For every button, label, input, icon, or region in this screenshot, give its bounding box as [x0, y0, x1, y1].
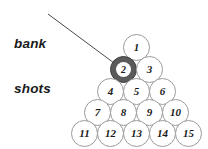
ball-2-number-disc: 2 [116, 62, 131, 77]
ball-8-number: 8 [121, 107, 127, 118]
ball-14: 14 [149, 120, 176, 147]
ball-13-number: 13 [131, 128, 142, 139]
ball-14-number: 14 [157, 128, 168, 139]
ball-12-number: 12 [105, 128, 116, 139]
ball-5-number: 5 [134, 86, 140, 97]
ball-3-number: 3 [147, 64, 153, 75]
ball-15-number: 15 [183, 128, 194, 139]
ball-11-number: 11 [79, 128, 89, 139]
diagram-canvas: bank shots 123456789101112131415 [0, 0, 208, 149]
ball-4-number: 4 [108, 86, 114, 97]
ball-10-number: 10 [170, 107, 181, 118]
ball-9-number: 9 [147, 107, 153, 118]
ball-1-number: 1 [134, 42, 140, 53]
ball-11: 11 [71, 120, 98, 147]
ball-15: 15 [175, 120, 202, 147]
ball-2-number: 2 [121, 64, 126, 74]
ball-12: 12 [97, 120, 124, 147]
ball-13: 13 [123, 120, 150, 147]
ball-6-number: 6 [160, 86, 166, 97]
ball-7-number: 7 [95, 107, 101, 118]
ball-rack: 123456789101112131415 [0, 0, 208, 149]
